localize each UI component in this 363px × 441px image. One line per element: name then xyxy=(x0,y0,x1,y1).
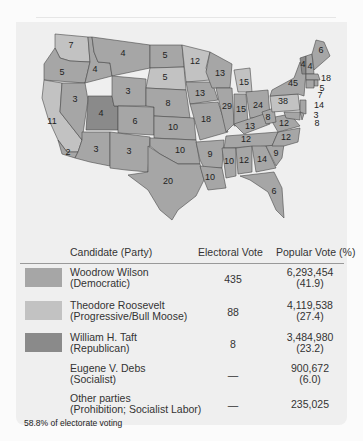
candidate-name: Other parties(Prohibition; Socialist Lab… xyxy=(70,393,201,415)
state-ev-label-ar: 9 xyxy=(207,149,212,159)
candidate-name: William H. Taft(Republican) xyxy=(70,332,137,354)
state-ev-label-ne: 8 xyxy=(165,98,170,108)
candidate-name: Woodrow Wilson(Democratic) xyxy=(70,267,149,289)
state-ev-label-al: 12 xyxy=(239,155,249,165)
electoral-vote: — xyxy=(198,369,268,381)
state-ev-label-ok: 10 xyxy=(175,145,185,155)
state-ev-label-nv: 3 xyxy=(72,94,77,104)
state-ev-label-ut: 4 xyxy=(98,108,103,118)
state-ev-label-ky: 13 xyxy=(245,121,255,131)
state-ev-label-md: 8 xyxy=(314,118,319,128)
header-popular-vote: Popular Vote (%) xyxy=(276,246,355,258)
header-candidate: Candidate (Party) xyxy=(70,246,152,258)
popular-vote: 4,119,538(27.4) xyxy=(275,300,345,322)
state-ev-label-in: 15 xyxy=(236,104,246,114)
state-ev-label-vt: 4 xyxy=(300,59,305,69)
state-ev-label-ma: 18 xyxy=(321,73,331,83)
legend-swatch-roosevelt xyxy=(25,301,62,320)
popular-vote: 6,293,454(41.9) xyxy=(275,267,345,289)
table-header: Candidate (Party) Electoral Vote Popular… xyxy=(20,243,344,264)
popular-vote: 3,484,980(23.2) xyxy=(275,332,345,354)
popular-vote: 235,025 xyxy=(275,399,345,410)
state-ev-label-mn: 12 xyxy=(190,56,200,66)
state-ev-label-me: 6 xyxy=(318,45,323,55)
table-row-roosevelt: Theodore Roosevelt(Progressive/Bull Moos… xyxy=(20,300,344,330)
state-ct xyxy=(306,80,314,88)
state-ev-label-la: 10 xyxy=(205,172,215,182)
state-ma xyxy=(306,74,320,80)
state-ev-label-oh: 24 xyxy=(253,100,263,110)
popular-vote: 900,672(6.0) xyxy=(275,363,345,385)
state-ev-label-wy: 3 xyxy=(125,86,130,96)
us-electoral-map: 7511243434363558101020121318910132915152… xyxy=(0,0,363,240)
state-ev-label-ia: 13 xyxy=(195,88,205,98)
state-ev-label-az: 3 xyxy=(93,144,98,154)
legend-swatch-wilson xyxy=(25,268,62,287)
state-ev-label-tx: 20 xyxy=(163,176,173,186)
state-ev-label-ca: 11 xyxy=(47,116,56,126)
state-ev-label-sc: 9 xyxy=(273,148,278,158)
turnout-note: 58.8% of electorate voting xyxy=(24,418,122,428)
state-fl xyxy=(240,172,284,218)
state-ev-label-nj: 14 xyxy=(314,100,324,110)
state-ev-label-wi: 13 xyxy=(215,68,225,78)
state-ev-label-tn: 12 xyxy=(241,134,251,144)
state-ev-label-or: 5 xyxy=(59,67,64,77)
state-ev-label-ms: 10 xyxy=(224,156,234,166)
state-ev-label-fl: 6 xyxy=(271,186,276,196)
state-ev-label-co: 6 xyxy=(132,116,137,126)
state-ev-label-ks: 10 xyxy=(168,122,178,132)
state-ev-label-mt: 4 xyxy=(120,48,125,58)
state-ev-label-pa: 38 xyxy=(278,96,288,106)
state-ev-label-wv: 8 xyxy=(265,112,270,122)
state-ev-label-ga: 14 xyxy=(257,154,267,164)
state-ev-label-mi: 15 xyxy=(239,77,249,87)
header-electoral-vote: Electoral Vote xyxy=(198,246,263,258)
electoral-vote: — xyxy=(198,399,268,411)
state-ev-label-nd: 5 xyxy=(162,50,167,60)
state-ev-label-ca-south: 2 xyxy=(65,147,70,157)
table-row-debs: Eugene V. Debs(Socialist) — 900,672(6.0) xyxy=(20,363,344,393)
candidate-name: Theodore Roosevelt(Progressive/Bull Moos… xyxy=(70,300,187,322)
table-row-wilson: Woodrow Wilson(Democratic) 435 6,293,454… xyxy=(20,267,344,297)
state-ev-label-nm: 3 xyxy=(126,146,131,156)
state-ev-label-ct: 7 xyxy=(317,90,322,100)
electoral-vote: 8 xyxy=(198,338,268,350)
electoral-vote: 88 xyxy=(198,306,268,318)
legend-swatch-taft xyxy=(25,333,62,352)
candidate-name: Eugene V. Debs(Socialist) xyxy=(70,363,146,385)
state-ev-label-id: 4 xyxy=(92,64,97,74)
state-ev-label-sd: 5 xyxy=(162,72,167,82)
state-ev-label-mo: 18 xyxy=(201,114,211,124)
state-ri xyxy=(314,80,318,86)
state-ev-label-va: 12 xyxy=(279,118,289,128)
state-ev-label-ny: 45 xyxy=(288,78,298,88)
state-ev-label-nc: 12 xyxy=(281,132,291,142)
table-row-taft: William H. Taft(Republican) 8 3,484,980(… xyxy=(20,332,344,362)
electoral-vote: 435 xyxy=(198,273,268,285)
state-nj xyxy=(300,100,306,114)
state-ev-label-il: 29 xyxy=(222,101,232,111)
state-ev-label-nh: 4 xyxy=(307,61,312,71)
state-ev-label-wa: 7 xyxy=(68,40,73,50)
